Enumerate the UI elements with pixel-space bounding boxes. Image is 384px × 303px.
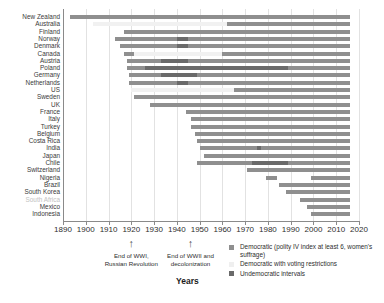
bar-segment-dem (247, 168, 349, 172)
bar-segment-dem (307, 205, 350, 209)
x-axis-title: Years (176, 276, 199, 286)
x-tick-label: 1960 (213, 225, 231, 234)
x-tick-label: 1890 (54, 225, 72, 234)
bar-segment-undem (161, 59, 188, 63)
bar-segment-dem (197, 139, 350, 143)
bar-segment-dem (129, 81, 177, 85)
y-axis-country-labels: New ZealandAustraliaFinlandNorwayDenmark… (0, 9, 60, 222)
bar-segment-restr (93, 22, 227, 26)
bar-segment-dem (134, 95, 350, 99)
bar-row (63, 210, 359, 219)
bar-segment-dem (227, 22, 350, 26)
bar-segment-undem (145, 66, 288, 70)
bar-segment-dem (129, 73, 161, 77)
bar-segment-dem (311, 176, 350, 180)
bar-segment-dem (222, 52, 350, 56)
chart-figure: New ZealandAustraliaFinlandNorwayDenmark… (0, 0, 384, 303)
bar-segment-dem (191, 125, 350, 129)
bar-segment-restr (131, 88, 233, 92)
bar-segment-dem (288, 66, 349, 70)
bar-segment-dem (234, 88, 350, 92)
y-axis-label-indonesia: Indonesia (0, 209, 60, 218)
x-tick-label: 1930 (145, 225, 163, 234)
bar-segment-dem (218, 110, 350, 114)
bar-segment-dem (261, 146, 350, 150)
bar-segment-restr (134, 52, 223, 56)
legend-label: Undemocratic intervals (240, 270, 305, 277)
bar-segment-dem (191, 117, 350, 121)
bar-segment-dem (188, 37, 350, 41)
bar-segment-undem (252, 161, 288, 165)
legend-label: Democratic with voting restrictions (240, 260, 337, 267)
legend-item[interactable]: Democratic (polity IV index at least 6, … (229, 243, 381, 259)
bar-segment-dem (188, 44, 350, 48)
bar-segment-dem (279, 183, 350, 187)
bar-segment-dem (200, 146, 257, 150)
x-tick-label: 1990 (282, 225, 300, 234)
legend-swatch-icon (229, 245, 234, 250)
bar-segment-dem (120, 44, 177, 48)
x-tick-label: 2020 (350, 225, 368, 234)
bar-segment-dem (311, 212, 350, 216)
bar-segment-dem (195, 132, 350, 136)
bar-segment-undem (177, 44, 188, 48)
bar-segment-undem (177, 37, 188, 41)
x-axis-line (63, 221, 359, 222)
legend-item[interactable]: Undemocratic intervals (229, 270, 381, 278)
bar-segment-dem (127, 59, 161, 63)
bar-segment-dem (266, 176, 277, 180)
bar-segment-undem (161, 73, 197, 77)
bar-segment-dem (188, 59, 350, 63)
x-tick-label: 1900 (77, 225, 95, 234)
bar-segment-dem (70, 15, 350, 19)
x-axis-tick-labels: 1890190019101920193019401950196019701980… (63, 225, 363, 237)
x-tick-label: 1910 (100, 225, 118, 234)
legend-label: Democratic (polity IV index at least 6, … (240, 243, 372, 258)
annotation-arrow-icon: ↑ (129, 238, 135, 249)
legend: Democratic (polity IV index at least 6, … (229, 243, 381, 279)
legend-swatch-icon (229, 262, 234, 267)
x-tick-label: 1970 (236, 225, 254, 234)
annotation-arrow-icon: ↑ (188, 238, 194, 249)
bar-segment-dem (286, 190, 350, 194)
x-tick-label: 2000 (305, 225, 323, 234)
legend-swatch-icon (229, 271, 234, 276)
plot-area (63, 9, 359, 222)
bar-segment-dem (204, 154, 350, 158)
bar-segment-dem (197, 73, 350, 77)
gridline (359, 9, 360, 221)
bar-segment-dem (124, 52, 133, 56)
bar-segment-dem (150, 103, 350, 107)
x-tick-label: 1950 (191, 225, 209, 234)
bar-segment-dem (288, 161, 349, 165)
bar-segment-dem (127, 66, 145, 70)
x-tick-label: 1980 (259, 225, 277, 234)
bar-segment-dem (124, 30, 349, 34)
bar-segment-dem (186, 110, 218, 114)
x-tick-label: 1940 (168, 225, 186, 234)
x-tick-label: 1920 (122, 225, 140, 234)
bar-segment-dem (115, 37, 176, 41)
bar-segment-dem (188, 81, 350, 85)
legend-item[interactable]: Democratic with voting restrictions (229, 260, 381, 268)
bar-segment-undem (177, 81, 188, 85)
bar-segment-dem (300, 198, 350, 202)
bar-segment-dem (197, 161, 252, 165)
x-tick-label: 2010 (327, 225, 345, 234)
